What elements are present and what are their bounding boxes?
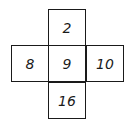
- cell-left: 8: [11, 45, 49, 82]
- cell-right: 10: [86, 45, 124, 82]
- cell-bottom: 16: [48, 82, 86, 119]
- cell-top: 2: [48, 9, 86, 46]
- cell-center: 9: [48, 45, 86, 82]
